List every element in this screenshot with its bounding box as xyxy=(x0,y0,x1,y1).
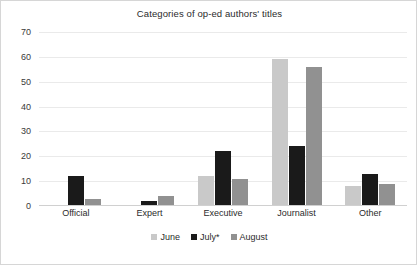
bar xyxy=(272,59,288,206)
y-axis: 706050403020100 xyxy=(1,32,35,206)
y-axis-tick-label: 30 xyxy=(21,126,31,136)
y-axis-tick-label: 10 xyxy=(21,176,31,186)
legend-item[interactable]: July* xyxy=(191,232,220,242)
bar xyxy=(232,179,248,206)
bar-group xyxy=(113,32,187,206)
legend-swatch-icon xyxy=(151,234,157,240)
x-axis-tick-label: Other xyxy=(359,208,382,218)
bar xyxy=(345,186,361,206)
y-axis-tick-label: 40 xyxy=(21,102,31,112)
bar xyxy=(68,176,84,206)
y-axis-tick-label: 50 xyxy=(21,77,31,87)
bar-group xyxy=(260,32,334,206)
bar-group xyxy=(333,32,407,206)
x-axis-baseline xyxy=(39,205,407,206)
chart-title: Categories of op-ed authors' titles xyxy=(1,8,417,19)
bar xyxy=(362,174,378,206)
y-axis-tick-label: 0 xyxy=(26,201,31,211)
bar xyxy=(306,67,322,206)
legend-label: July* xyxy=(200,232,220,242)
x-axis-tick-label: Official xyxy=(62,208,89,218)
x-axis: OfficialExpertExecutiveJournalistOther xyxy=(39,208,407,224)
legend-item[interactable]: August xyxy=(231,232,268,242)
x-axis-tick-label: Executive xyxy=(203,208,242,218)
bar-group xyxy=(186,32,260,206)
chart-legend: JuneJuly*August xyxy=(1,232,417,242)
legend-swatch-icon xyxy=(231,234,237,240)
bars-layer xyxy=(39,32,407,206)
x-axis-tick-label: Journalist xyxy=(277,208,316,218)
y-axis-tick-label: 20 xyxy=(21,151,31,161)
y-axis-tick-label: 60 xyxy=(21,52,31,62)
legend-label: June xyxy=(160,232,180,242)
bar xyxy=(215,151,231,206)
plot-area xyxy=(39,32,407,206)
bar xyxy=(198,176,214,206)
bar xyxy=(379,184,395,206)
x-axis-tick-label: Expert xyxy=(136,208,162,218)
legend-swatch-icon xyxy=(191,234,197,240)
bar xyxy=(289,146,305,206)
legend-item[interactable]: June xyxy=(151,232,180,242)
legend-label: August xyxy=(240,232,268,242)
bar-group xyxy=(39,32,113,206)
bar-chart-figure: Categories of op-ed authors' titles 7060… xyxy=(0,0,417,265)
y-axis-tick-label: 70 xyxy=(21,27,31,37)
